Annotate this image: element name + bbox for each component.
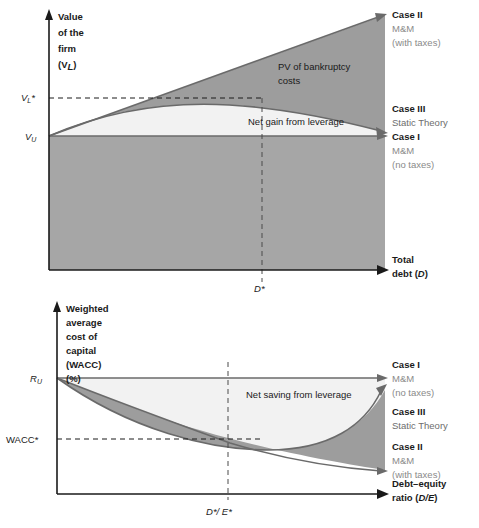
top-x-axis-label-line1: Total bbox=[392, 254, 414, 265]
bottom-y-axis-label-line3: cost of bbox=[66, 331, 98, 342]
bottom-legend-case1-line2: (no taxes) bbox=[392, 387, 434, 398]
top-tick-vu: VU bbox=[25, 131, 37, 143]
bottom-y-axis-label-line1: Weighted bbox=[66, 303, 109, 314]
bottom-legend-case1-title: Case I bbox=[392, 359, 420, 370]
bottom-x-axis-label-line2: ratio (D/E) bbox=[392, 492, 437, 503]
bottom-y-axis-label-line4: capital bbox=[66, 345, 96, 356]
top-y-axis-label-line2: of the bbox=[58, 27, 84, 38]
bottom-legend-case2-line2: (with taxes) bbox=[392, 469, 441, 480]
bottom-y-axis-arrow bbox=[53, 301, 61, 312]
top-y-axis-label-line4: (VL) bbox=[58, 59, 76, 72]
bottom-legend-case3-line1: Static Theory bbox=[392, 420, 448, 431]
bottom-legend-case3-title: Case III bbox=[392, 406, 425, 417]
bottom-tick-ru: RU bbox=[30, 373, 43, 385]
bottom-legend-case2-title: Case II bbox=[392, 441, 423, 452]
top-y-axis-arrow bbox=[45, 9, 53, 20]
bottom-tick-wacc-star: WACC* bbox=[6, 434, 39, 445]
top-legend-case2-line1: M&M bbox=[392, 23, 414, 34]
top-annotation-bankruptcy-line1: PV of bankruptcy bbox=[278, 61, 351, 72]
top-annotation-net-gain: Net gain from leverage bbox=[248, 116, 344, 127]
top-case1-region bbox=[49, 136, 385, 270]
top-legend-case2-line2: (with taxes) bbox=[392, 37, 441, 48]
bottom-y-axis-label-line5: (WACC) bbox=[66, 359, 101, 370]
bottom-x-axis-arrow bbox=[377, 489, 389, 499]
bottom-legend: Case I M&M (no taxes) Case III Static Th… bbox=[392, 359, 448, 480]
top-legend-case1-line2: (no taxes) bbox=[392, 159, 434, 170]
top-legend: Case II M&M (with taxes) Case III Static… bbox=[392, 9, 448, 170]
capital-structure-figure: Value of the firm (VL) Total debt (D) VL… bbox=[0, 0, 479, 528]
top-annotation-bankruptcy-line2: costs bbox=[278, 75, 300, 86]
top-tick-vl-star: VL* bbox=[21, 92, 35, 104]
bottom-y-axis-label-line6: (%) bbox=[66, 373, 81, 384]
bottom-chart: Weighted average cost of capital (WACC) … bbox=[6, 301, 448, 517]
top-legend-case3-line1: Static Theory bbox=[392, 117, 448, 128]
top-tick-d-star: D* bbox=[254, 283, 265, 294]
top-legend-case3-title: Case III bbox=[392, 103, 425, 114]
bottom-legend-case2-line1: M&M bbox=[392, 455, 414, 466]
top-y-axis-label-line3: firm bbox=[58, 43, 76, 54]
top-legend-case2-title: Case II bbox=[392, 9, 423, 20]
bottom-tick-dstar-estar: D*/ E* bbox=[206, 506, 232, 517]
bottom-legend-case1-line1: M&M bbox=[392, 373, 414, 384]
top-legend-case1-title: Case I bbox=[392, 131, 420, 142]
top-chart: Value of the firm (VL) Total debt (D) VL… bbox=[21, 9, 448, 294]
top-legend-case1-line1: M&M bbox=[392, 145, 414, 156]
bottom-y-axis-label-line2: average bbox=[66, 317, 102, 328]
bottom-annotation-net-saving: Net saving from leverage bbox=[246, 389, 352, 400]
top-y-axis-label-line1: Value bbox=[58, 11, 83, 22]
top-x-axis-label-line2: debt (D) bbox=[392, 268, 428, 279]
